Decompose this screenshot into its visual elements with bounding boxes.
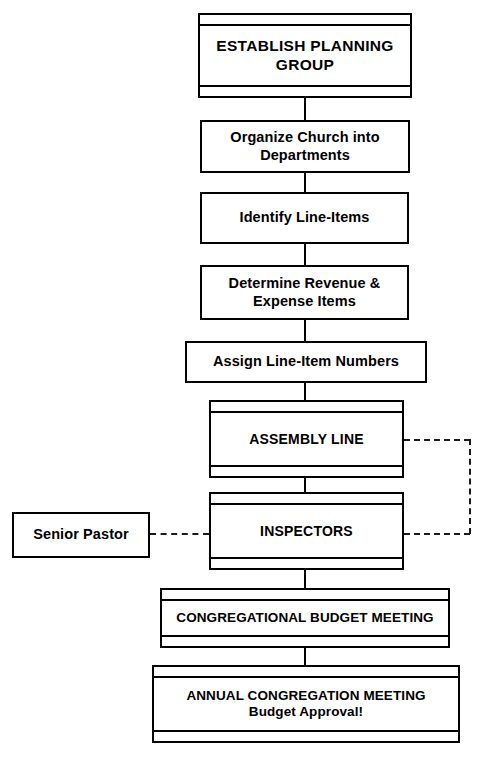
node-band-top	[211, 402, 402, 413]
node-congregational-budget-meeting[interactable]: CONGREGATIONAL BUDGET MEETING	[160, 588, 450, 648]
node-label-assign-numbers: Assign Line-Item Numbers	[187, 353, 425, 370]
node-band-top	[154, 667, 458, 678]
node-label-organize-church: Organize Church into Departments	[202, 129, 408, 163]
node-label-annual-congregation-meeting: ANNUAL CONGREGATION MEETING Budget Appro…	[180, 688, 431, 720]
connector-determine-to-assign	[304, 320, 306, 341]
node-label-inspectors: INSPECTORS	[254, 523, 359, 540]
node-band-top	[211, 494, 402, 505]
node-body: ANNUAL CONGREGATION MEETING Budget Appro…	[154, 678, 458, 730]
node-determine-revenue[interactable]: Determine Revenue & Expense Items	[200, 265, 409, 320]
node-band-bottom	[211, 557, 402, 568]
connector-inspectors-to-congregational	[304, 570, 306, 588]
node-inspectors[interactable]: INSPECTORS	[209, 492, 404, 570]
node-label-identify-line-items: Identify Line-Items	[202, 209, 407, 226]
connector-assembly-feedback-side	[469, 439, 471, 534]
node-label-determine-revenue: Determine Revenue & Expense Items	[202, 275, 407, 309]
connector-senior-pastor-to-inspectors	[150, 533, 209, 535]
node-body: ESTABLISH PLANNING GROUP	[200, 26, 410, 85]
node-annual-congregation-meeting[interactable]: ANNUAL CONGREGATION MEETING Budget Appro…	[152, 665, 460, 743]
connector-assembly-feedback-top	[404, 439, 470, 441]
node-body: CONGREGATIONAL BUDGET MEETING	[162, 601, 448, 635]
node-body: ASSEMBLY LINE	[211, 413, 402, 465]
node-band-bottom	[162, 635, 448, 646]
node-organize-church[interactable]: Organize Church into Departments	[200, 120, 410, 173]
connector-assembly-feedback-bottom	[404, 533, 470, 535]
flowchart-canvas: ESTABLISH PLANNING GROUP Organize Church…	[0, 0, 484, 758]
node-label-assembly-line: ASSEMBLY LINE	[243, 431, 370, 448]
connector-organize-to-identify	[304, 173, 306, 192]
node-establish-planning-group[interactable]: ESTABLISH PLANNING GROUP	[198, 13, 412, 98]
node-assign-numbers[interactable]: Assign Line-Item Numbers	[185, 341, 427, 383]
node-label-senior-pastor: Senior Pastor	[14, 526, 148, 543]
node-identify-line-items[interactable]: Identify Line-Items	[200, 192, 409, 244]
node-band-bottom	[200, 85, 410, 96]
connector-congregational-to-annual	[304, 648, 306, 665]
node-band-bottom	[211, 465, 402, 476]
node-band-top	[200, 15, 410, 26]
connector-identify-to-determine	[304, 244, 306, 265]
node-body: INSPECTORS	[211, 505, 402, 557]
node-label-congregational-budget-meeting: CONGREGATIONAL BUDGET MEETING	[170, 610, 439, 626]
connector-assign-to-assembly	[304, 383, 306, 400]
node-band-top	[162, 590, 448, 601]
node-senior-pastor[interactable]: Senior Pastor	[12, 512, 150, 558]
node-band-bottom	[154, 730, 458, 741]
connector-assembly-to-inspectors	[304, 478, 306, 492]
node-label-establish-planning-group: ESTABLISH PLANNING GROUP	[210, 37, 399, 74]
connector-establish-to-organize	[304, 98, 306, 120]
node-assembly-line[interactable]: ASSEMBLY LINE	[209, 400, 404, 478]
